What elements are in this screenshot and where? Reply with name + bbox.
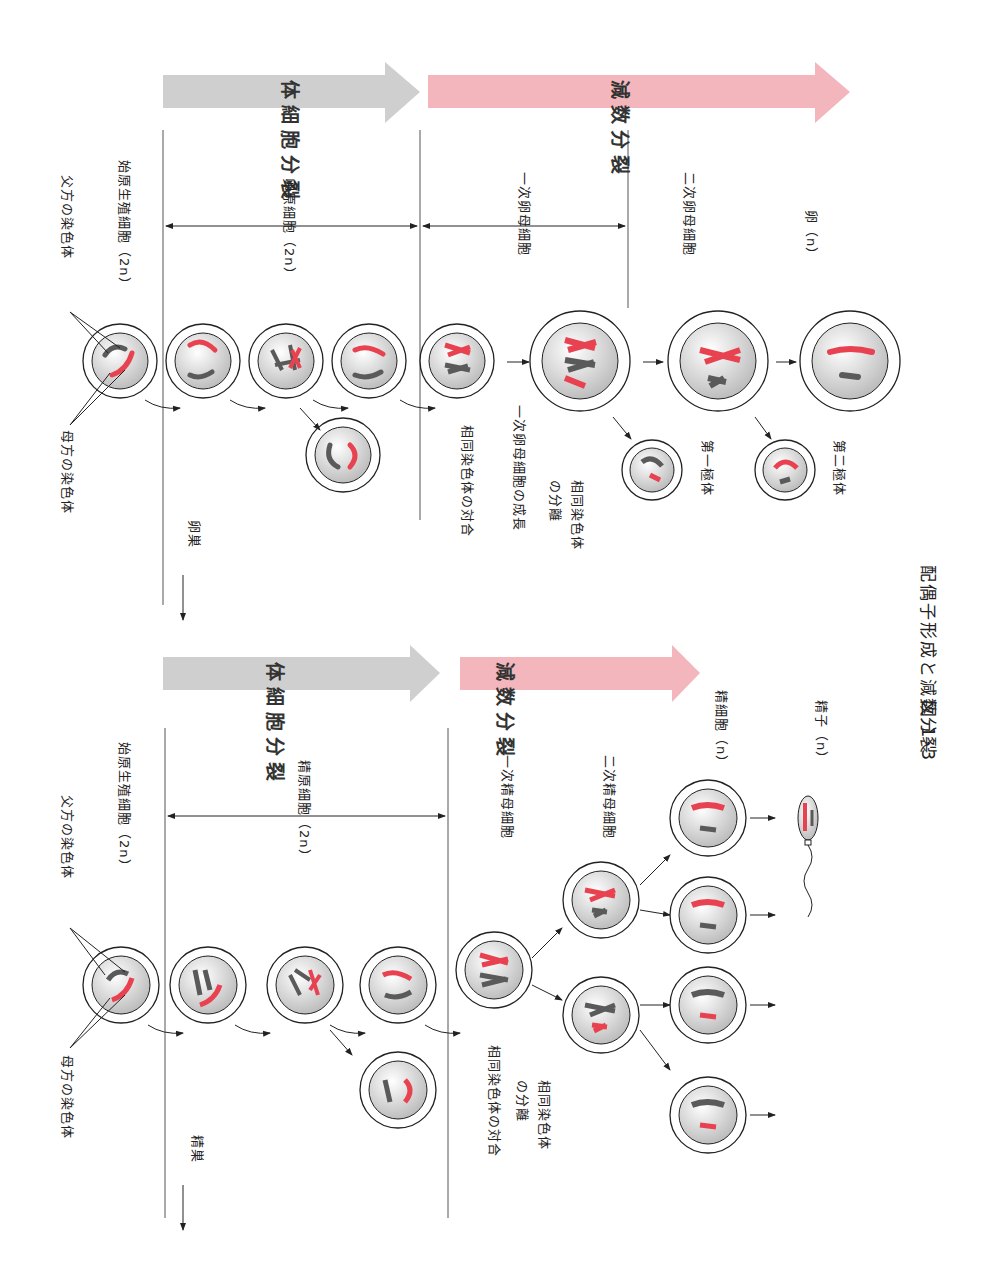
figure-caption: 配偶子形成と減数分裂 [917,565,942,755]
oo-separation-label: 相同染色体 の分離 [544,480,588,550]
sp-secondary-label: 二次精母細胞 [601,755,620,839]
oo-organ-label: 卵巣 [186,520,205,548]
sp-spermatid-label: 精細胞（n） [713,690,732,769]
oo-primary-label: 一次卵母細胞 [516,172,535,256]
sp-paternal-label: 父方の染色体 [59,795,78,879]
sp-cells [83,780,746,1153]
sp-sperm-label: 精子（n） [813,700,832,765]
sp-organ-label: 精巣 [189,1135,208,1163]
sp-separation-label: 相同染色体 の分離 [511,1080,555,1150]
oo-growth-label: 一次卵母細胞の成長 [511,405,530,531]
sp-synapsis-label: 相同染色体の対合 [486,1045,505,1157]
oo-cells [83,311,900,500]
oo-oogonia-label: 卵原細胞（2n） [281,178,300,281]
meiosis-phase-arrow-oo [428,62,850,123]
oo-secondary-label: 二次卵母細胞 [681,172,700,256]
sp-mitosis-phase-label: 体細胞分裂 [263,662,290,787]
oo-paternal-label: 父方の染色体 [59,175,78,259]
sperm-group [798,796,818,917]
oo-maternal-label: 母方の染色体 [59,430,78,514]
sp-maternal-label: 母方の染色体 [59,1055,78,1139]
sp-primary-label: 一次精母細胞 [499,755,518,839]
mitosis-phase-arrow-sp [163,645,440,702]
oo-meiosis-phase-label: 減数分裂 [608,80,635,180]
oo-primordial-label: 始原生殖細胞（2n） [116,160,135,291]
oo-egg-label: 卵（n） [803,210,822,261]
oo-polar2-label: 第二極体 [831,440,850,496]
oo-polar1-label: 第一極体 [699,440,718,496]
sp-primordial-label: 始原生殖細胞（2n） [116,742,135,873]
sp-spermatogonia-label: 精原細胞（2n） [296,760,315,863]
sp-meiosis-phase-label: 減数分裂 [493,662,520,762]
oo-synapsis-label: 相同染色体の対合 [459,425,478,537]
